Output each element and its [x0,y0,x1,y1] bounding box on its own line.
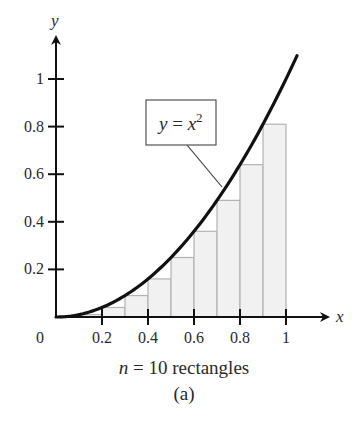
riemann-rectangle [240,165,263,317]
x-axis-label: x [335,307,344,326]
riemann-rectangle [263,124,286,317]
riemann-rectangle [217,200,240,317]
riemann-rectangle [194,231,217,317]
x-tick-label: 0.4 [138,329,158,346]
y-tick-label: 0.6 [24,165,44,182]
riemann-rectangle [148,279,171,317]
x-tick-label: 0.2 [92,329,112,346]
riemann-rectangle [125,296,148,317]
y-axis-label: y [49,11,59,30]
y-tick-label: 0.4 [24,213,44,230]
x-tick-label: 0.8 [230,329,250,346]
riemann-rectangle [171,258,194,318]
riemann-rectangles [79,124,286,317]
x-tick-label: 1 [282,329,290,346]
callout-label: y = x2 [157,110,203,134]
chart-caption: n = 10 rectangles [119,357,249,378]
x-tick-label: 0.6 [184,329,204,346]
callout-leader-line [187,145,222,187]
y-tick-label: 0.8 [24,118,44,135]
riemann-sum-chart: 0.20.40.60.81 0.20.40.60.81 y = x2 y x 0… [0,0,361,422]
origin-label: 0 [36,329,44,346]
riemann-rectangle [102,307,125,317]
y-tick-label: 1 [36,70,44,87]
callout-exponent: 2 [196,110,203,125]
subfigure-label: (a) [173,383,194,405]
y-tick-label: 0.2 [24,260,44,277]
chart-svg: 0.20.40.60.81 0.20.40.60.81 y = x2 y x 0… [0,0,361,422]
y-axis-ticks: 0.20.40.60.81 [24,70,64,277]
